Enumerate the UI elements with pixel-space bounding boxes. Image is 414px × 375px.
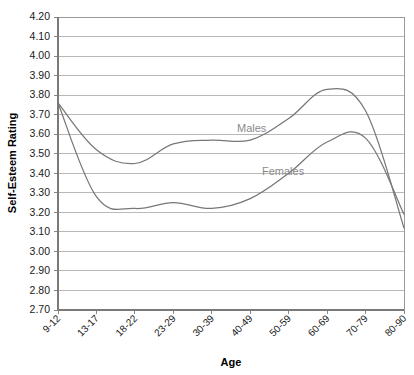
y-tick-label: 3.50: [30, 147, 51, 159]
plot-frame: [58, 17, 404, 310]
y-tick-label: 3.70: [30, 108, 51, 120]
x-tick-label: 23-29: [152, 312, 178, 338]
x-tick-label: 70-79: [344, 312, 370, 338]
y-tick-label: 3.60: [30, 127, 51, 139]
series-label-males: Males: [237, 122, 267, 134]
y-axis-title: Self-Esteem Rating: [6, 113, 18, 213]
x-tick-label: 30-39: [190, 312, 216, 338]
data-series-group: [58, 88, 404, 228]
y-axis-tick-marks: [54, 17, 58, 310]
y-tick-label: 3.80: [30, 88, 51, 100]
y-tick-label: 2.80: [30, 284, 51, 296]
x-tick-label: 13-17: [75, 312, 101, 338]
x-tick-label: 80-90: [383, 312, 409, 338]
y-tick-label: 3.90: [30, 69, 51, 81]
series-label-females: Females: [262, 165, 305, 177]
series-line-males: [58, 88, 404, 228]
x-axis-tick-marks: [58, 310, 404, 314]
x-tick-label: 9-12: [40, 312, 62, 334]
x-tick-label: 18-22: [113, 312, 139, 338]
x-tick-label: 60-69: [306, 312, 332, 338]
x-tick-label: 40-49: [229, 312, 255, 338]
x-axis-tick-labels: 9-1213-1718-2223-2930-3940-4950-5960-697…: [40, 312, 408, 338]
y-axis-tick-labels: 4.204.104.003.903.803.703.603.503.403.30…: [30, 10, 51, 315]
y-tick-label: 2.90: [30, 264, 51, 276]
y-tick-label: 4.20: [30, 10, 51, 22]
y-tick-label: 3.00: [30, 245, 51, 257]
y-tick-label: 3.10: [30, 225, 51, 237]
y-tick-label: 4.00: [30, 49, 51, 61]
x-tick-label: 50-59: [267, 312, 293, 338]
y-tick-label: 2.70: [30, 303, 51, 315]
y-tick-label: 3.20: [30, 206, 51, 218]
gridlines: [58, 37, 404, 310]
self-esteem-by-age-line-chart: 4.204.104.003.903.803.703.603.503.403.30…: [0, 0, 414, 375]
y-tick-label: 3.30: [30, 186, 51, 198]
chart-figure: 4.204.104.003.903.803.703.603.503.403.30…: [0, 0, 414, 375]
y-tick-label: 3.40: [30, 167, 51, 179]
x-axis-title: Age: [221, 356, 242, 368]
y-tick-label: 4.10: [30, 30, 51, 42]
